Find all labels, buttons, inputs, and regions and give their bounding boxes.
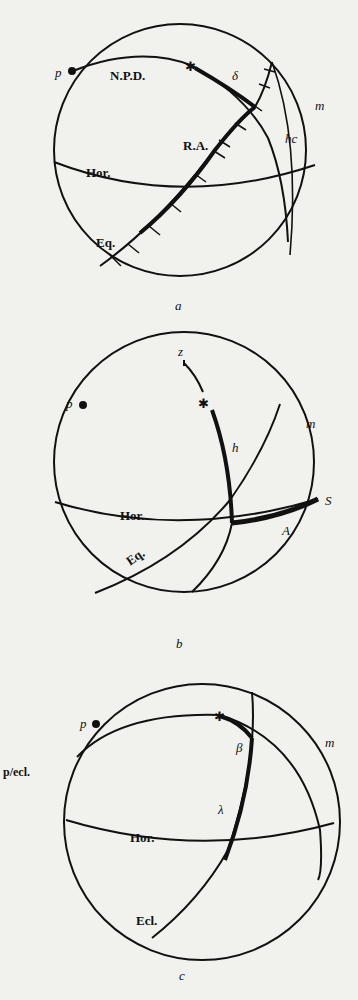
celestial-sphere-diagrams: p N.P.D. ✱ δ m hc R.A. Hor. Eq. a z p ✱ … [0,0,358,1000]
lambda-segment [225,738,252,860]
star-icon-a: ✱ [185,59,196,74]
sphere-c-outline [64,684,340,960]
label-meridian-a: m [315,98,324,113]
label-pole-a: p [54,65,62,80]
label-horizon-b: Hor. [120,508,144,523]
label-delta: δ [232,68,239,83]
declination-segment [195,68,255,107]
altitude-segment [212,410,232,523]
horizon-b [55,499,318,520]
label-equator-a: Eq. [96,235,115,250]
figure-c [64,684,340,960]
sphere-b-outline [54,332,314,592]
hour-circle-arc [193,66,288,242]
label-ecliptic: Ecl. [136,913,157,928]
label-altitude: h [232,440,239,455]
equator-b [95,404,280,593]
equator-ticks [110,69,275,266]
label-lambda: λ [217,802,224,817]
label-south: S [325,493,332,508]
label-zenith: z [177,344,183,359]
label-pole-b: p [65,396,73,411]
label-ra: R.A. [183,138,208,153]
vertical-circle-top [184,363,203,392]
label-beta: β [235,740,243,755]
label-meridian-b: m [306,416,315,431]
label-meridian-c: m [325,735,334,750]
label-azimuth: A [281,523,290,538]
pole-dot-a [69,68,75,74]
label-equator-b: Eq. [123,545,147,568]
label-horizon-a: Hor. [86,165,110,180]
caption-b: b [176,636,183,651]
equator-a [100,62,272,266]
ra-segment [140,107,255,233]
horizon-c [66,820,334,841]
label-npd: N.P.D. [110,68,145,83]
figure-b [54,332,318,593]
label-hour-circle: hc [285,131,298,146]
label-horizon-c: Hor. [130,830,154,845]
pole-dot-c [93,721,99,727]
label-pole-ecliptic: p/ecl. [3,765,30,780]
caption-a: a [175,298,182,313]
label-pole-c: p [79,716,87,731]
star-icon-b: ✱ [198,396,209,411]
pole-dot-b [80,402,86,408]
caption-c: c [179,968,185,983]
star-icon-c: ✱ [214,709,225,724]
